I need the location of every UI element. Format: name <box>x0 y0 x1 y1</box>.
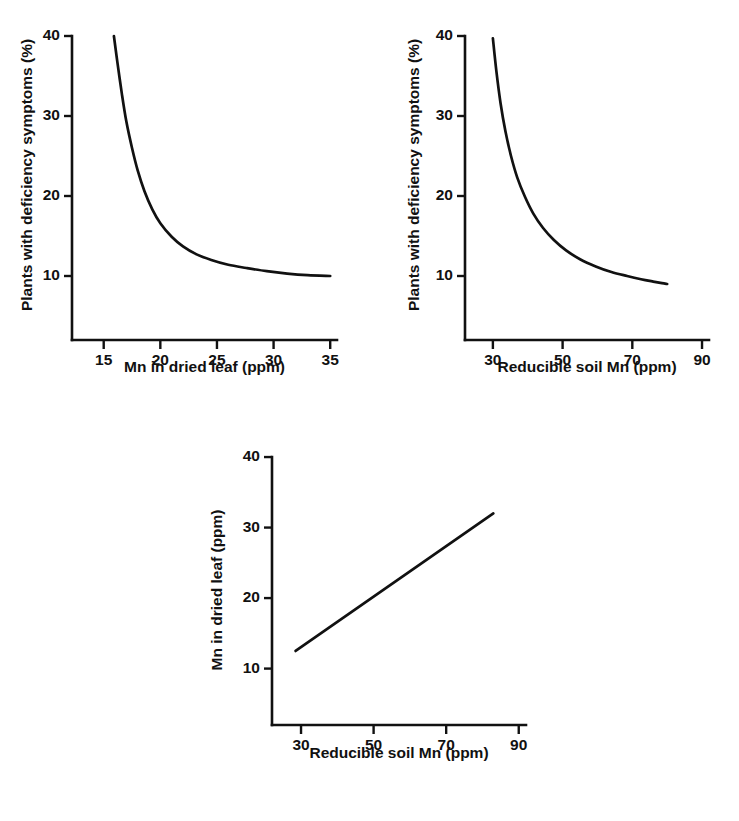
y-tick-label: 30 <box>436 106 453 123</box>
series-group <box>296 513 494 651</box>
y-tick-label: 20 <box>436 186 453 203</box>
y-tick-label: 30 <box>43 106 60 123</box>
y-tick-label: 40 <box>43 26 60 43</box>
y-tick-group: 10203040 <box>43 26 72 283</box>
x-tick-label: 30 <box>292 736 309 753</box>
data-curve <box>493 38 667 284</box>
y-tick-label: 10 <box>43 266 60 283</box>
axes-group: 10203040 30507090 <box>436 26 711 368</box>
y-tick-label: 30 <box>243 518 260 535</box>
y-tick-label: 10 <box>243 659 260 676</box>
series-group <box>493 38 667 284</box>
x-tick-label: 35 <box>322 351 340 368</box>
chart-panel-soil-mn-vs-leaf-mn: 10203040 30507090 Reducible soil Mn (ppm… <box>180 400 580 821</box>
series-group <box>114 36 330 276</box>
x-tick-label: 90 <box>510 736 527 753</box>
axes-group: 10203040 30507090 <box>243 447 528 753</box>
x-tick-label: 15 <box>95 351 113 368</box>
x-axis-title: Reducible soil Mn (ppm) <box>309 744 488 761</box>
y-axis-title: Plants with deficiency symptoms (%) <box>18 39 35 311</box>
y-tick-label: 10 <box>436 266 453 283</box>
y-axis-title: Mn in dried leaf (ppm) <box>208 509 225 670</box>
chart-panel-soil-mn-vs-deficiency: 10203040 30507090 Reducible soil Mn (ppm… <box>369 0 739 400</box>
data-curve <box>114 36 330 276</box>
data-curve <box>296 513 494 651</box>
x-tick-label: 90 <box>693 351 710 368</box>
y-tick-label: 20 <box>43 186 60 203</box>
x-axis-title: Reducible soil Mn (ppm) <box>497 358 676 375</box>
y-tick-group: 10203040 <box>436 26 465 283</box>
chart-panel-leaf-mn-vs-deficiency: 10203040 1520253035 Mn in dried leaf (pp… <box>0 0 370 400</box>
x-axis-title: Mn in dried leaf (ppm) <box>124 358 285 375</box>
axes-group: 10203040 1520253035 <box>43 26 339 368</box>
chart-svg-leaf-mn-vs-deficiency: 10203040 1520253035 Mn in dried leaf (pp… <box>0 0 370 400</box>
y-tick-label: 20 <box>243 588 260 605</box>
y-tick-group: 10203040 <box>243 447 272 676</box>
y-tick-label: 40 <box>436 26 453 43</box>
y-axis-title: Plants with deficiency symptoms (%) <box>405 39 422 311</box>
y-tick-label: 40 <box>243 447 260 464</box>
chart-svg-soil-mn-vs-leaf-mn: 10203040 30507090 Reducible soil Mn (ppm… <box>180 400 580 821</box>
chart-svg-soil-mn-vs-deficiency: 10203040 30507090 Reducible soil Mn (ppm… <box>369 0 739 400</box>
figure-sheet: 10203040 1520253035 Mn in dried leaf (pp… <box>0 0 739 821</box>
